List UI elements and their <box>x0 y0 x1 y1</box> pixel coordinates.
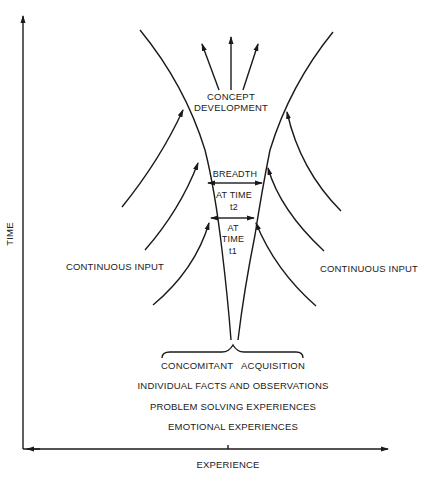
y-axis-label: TIME <box>4 214 16 254</box>
breadth-label: BREADTH <box>200 168 270 180</box>
t2-label-line2: t2 <box>200 201 268 213</box>
acquisition-label: CONCOMITANT ACQUISITION <box>148 360 318 372</box>
x-axis-label: EXPERIENCE <box>178 459 278 471</box>
continuous-input-left: CONTINUOUS INPUT <box>60 261 170 273</box>
acquisition-item: PROBLEM SOLVING EXPERIENCES <box>148 401 318 413</box>
acquisition-brace <box>162 345 303 358</box>
funnel-left-curve <box>140 30 231 340</box>
input-arrow-left-2 <box>145 163 198 250</box>
t2-label-line1: AT TIME <box>200 189 268 201</box>
concept-arrow-right <box>243 44 258 90</box>
t1-label-line2: TIME <box>202 233 264 245</box>
funnel-right-curve <box>238 32 333 340</box>
continuous-input-right: CONTINUOUS INPUT <box>314 263 424 275</box>
acquisition-item: EMOTIONAL EXPERIENCES <box>158 421 308 433</box>
input-arrow-right-3 <box>256 223 316 306</box>
t1-label-line3: t1 <box>202 245 264 257</box>
concept-arrow-left <box>202 44 219 90</box>
input-arrow-right-1 <box>287 112 341 211</box>
input-arrow-left-1 <box>122 110 183 207</box>
concept-label-line2: DEVELOPMENT <box>186 102 276 114</box>
acquisition-item: INDIVIDUAL FACTS AND OBSERVATIONS <box>118 380 348 392</box>
